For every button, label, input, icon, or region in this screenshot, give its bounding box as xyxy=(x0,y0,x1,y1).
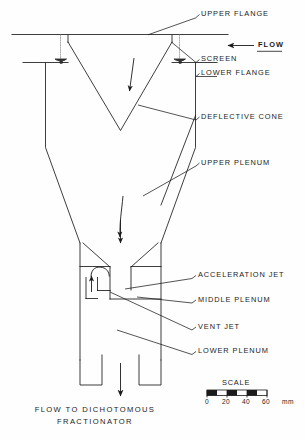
scale-title: SCALE xyxy=(222,379,250,386)
flow-arrows xyxy=(91,58,134,396)
scale-tick-40: 40 xyxy=(242,398,250,405)
upper-plenum-funnel xyxy=(161,116,196,206)
label-middle-plenum: MIDDLE PLENUM xyxy=(198,296,270,303)
label-lower-flange: LOWER FLANGE xyxy=(201,69,271,76)
acceleration-jet xyxy=(80,243,161,290)
scale-bar xyxy=(207,390,267,398)
hidden-bolt-lines xyxy=(61,35,180,61)
deflective-cone xyxy=(68,42,172,131)
label-upper-plenum: UPPER PLENUM xyxy=(201,159,270,166)
label-screen: SCREEN xyxy=(201,55,237,62)
label-upper-flange: UPPER FLANGE xyxy=(201,10,269,17)
scale-tick-20: 20 xyxy=(222,398,230,405)
outlet-caption: FLOW TO DICHOTOMOUS FRACTIONATOR xyxy=(0,404,190,427)
label-acceleration-jet: ACCELERATION JET xyxy=(198,271,285,278)
screen-element xyxy=(68,35,172,42)
vessel-middle-column xyxy=(80,243,161,360)
caption-line-2: FRACTIONATOR xyxy=(0,416,190,428)
caption-line-1: FLOW TO DICHOTOMOUS xyxy=(0,404,190,416)
scale-tick-0: 0 xyxy=(205,398,209,405)
middle-plenum-internals xyxy=(86,278,161,300)
label-flow: FLOW xyxy=(258,41,284,48)
diagram-page: UPPER FLANGE FLOW SCREEN LOWER FLANGE DE… xyxy=(0,0,305,440)
label-deflective-cone: DEFLECTIVE CONE xyxy=(201,113,284,120)
label-vent-jet: VENT JET xyxy=(198,323,240,330)
apparatus-cross-section xyxy=(0,0,305,440)
label-lower-plenum: LOWER PLENUM xyxy=(198,347,269,354)
scale-tick-60: 60 xyxy=(262,398,270,405)
scale-unit: mm xyxy=(282,398,294,405)
